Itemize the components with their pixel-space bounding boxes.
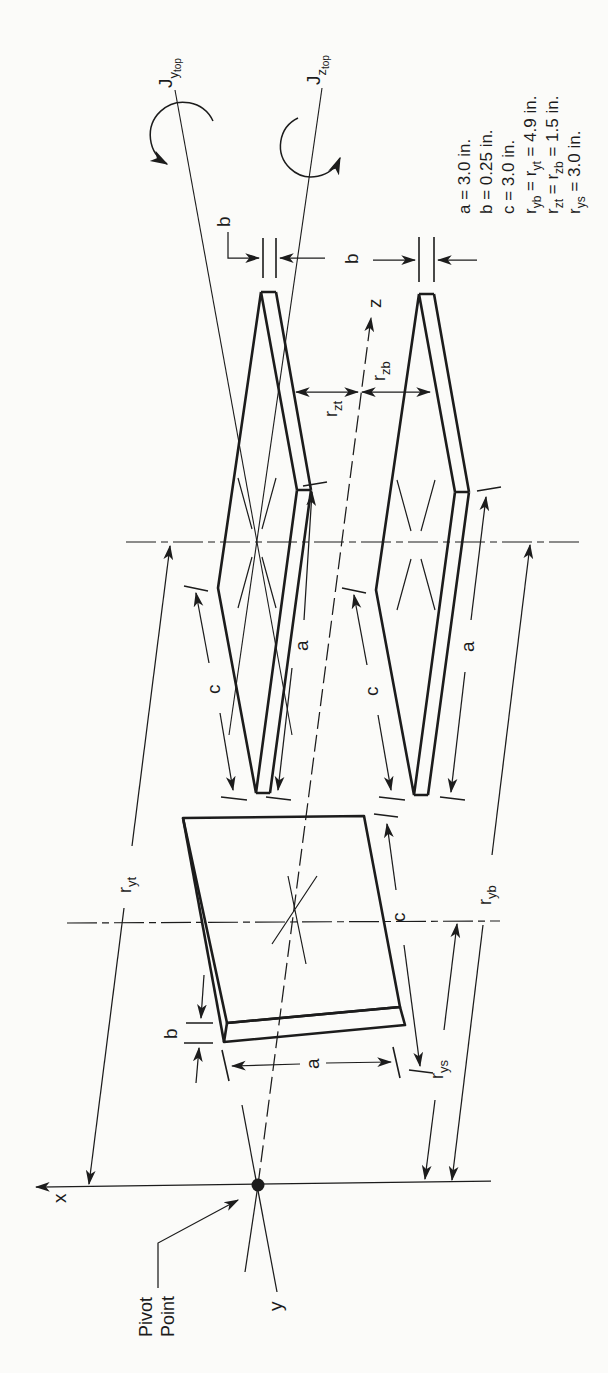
c-dim-line-lower [404,945,420,1066]
r-yb-line-upper [492,545,530,855]
c-dim-line-upper [196,593,209,663]
slab-center-mark [272,876,317,964]
z-axis-label: z [364,299,385,309]
top-plate-b-dim: b [213,216,325,278]
r-yt-line-lower [89,908,124,1184]
r-zt-label: rzt [321,401,345,418]
r-zb-label: rzb [369,361,393,381]
b-dim-label: b [341,253,362,264]
a-dim-line-lower [451,672,465,792]
bottom-plate: b c a [341,237,501,800]
r-yb-line-lower [452,925,483,1180]
b-dim-label: b [213,216,234,227]
c-dim-line-upper [387,824,396,890]
rotation-arrow-jy-icon [150,102,213,164]
a-dim-label: a [302,1058,323,1069]
diagram-svg: Jytop Jztop x y z Pivot Point b [0,0,608,1373]
r-yt-line-upper [132,546,170,846]
given-line-b: b = 0.25 in. [477,129,496,214]
r-ys-line-upper [444,924,457,1030]
b-dim-ticks [419,237,434,282]
c-dim-ticks [374,814,433,1073]
given-line-c: c = 3.0 in. [499,140,518,214]
figure-canvas: Jytop Jztop x y z Pivot Point b [0,0,608,1373]
pivot-callout: Pivot Point [136,1200,238,1337]
centerlines [67,542,580,923]
y-axis-label: y [265,1301,286,1311]
r-yt-label: ryt [115,877,139,894]
pivot-point-dot [252,1179,265,1192]
given-values: a = 3.0 in. b = 0.25 in. c = 3.0 in. ryb… [455,96,588,214]
x-axis-label: x [49,1193,70,1203]
a-dim-line-left [232,1064,300,1066]
slab-c-dim: c [374,814,433,1073]
b-dim-upper-arrow [201,975,204,1018]
b-dim-label: b [160,1028,181,1039]
slab: b a c [160,814,433,1083]
c-dim-line-upper [354,595,367,665]
y-axis-line [242,1105,277,1292]
z-axis-tail-line [245,1185,258,1272]
b-dim-ticks [184,1023,213,1043]
c-dim-line-lower [378,715,391,790]
c-dim-label: c [388,913,409,923]
top-plate: b c a [184,216,327,800]
r-ys-label: rys [427,1060,451,1080]
j-y-axis-line [175,90,292,735]
j-ztop-label: Jztop [303,55,331,85]
given-line-rzt-rzb: rzt = rzb = 1.5 in. [543,96,566,214]
pivot-label-line2: Point [158,1296,178,1337]
r-ys-line-lower [425,1100,435,1179]
b-dim-lower-arrow [196,1048,199,1083]
given-line-a: a = 3.0 in. [455,139,474,214]
bottom-plate-b-dim: b [341,237,477,282]
j-ytop-label: Jytop [155,58,183,88]
slab-a-dim: a [222,1047,400,1081]
given-line-rys: rys = 3.0 in. [565,131,588,214]
a-dim-line-right [326,1062,391,1063]
r-yb-label: ryb [475,885,499,905]
slab-left-edge [183,818,224,1042]
a-dim-line-upper [471,497,486,620]
pivot-leader-arrow [158,1200,238,1288]
pivot-label-line1: Pivot [136,1297,156,1337]
b-dim-ticks [263,238,276,278]
b-dim-left-arrow [228,232,259,258]
slab-centerline [67,921,500,923]
slab-b-dim: b [160,975,213,1083]
c-dim-label: c [361,687,382,697]
c-dim-label: c [203,685,224,695]
a-dim-label: a [457,641,478,652]
bottom-plate-center-mark [397,480,435,610]
given-line-ryb-ryt: ryb = ryt = 4.9 in. [521,96,544,214]
a-dim-label: a [291,640,312,651]
slab-front-face [224,1007,405,1042]
coordinate-axes: x y z [36,299,491,1312]
